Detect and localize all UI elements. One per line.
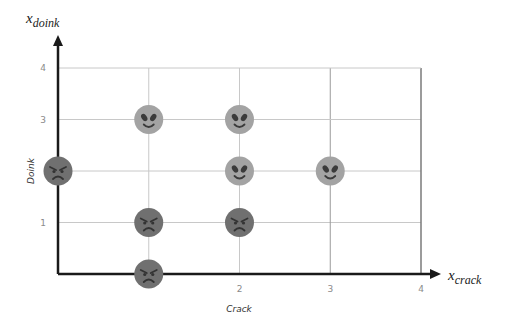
y-axis-title: Doink xyxy=(26,157,36,184)
x-axis-arrow-icon xyxy=(430,269,441,279)
x-variable-label: xcrack xyxy=(447,267,482,287)
axes xyxy=(53,35,441,279)
y-axis-arrow-icon xyxy=(53,35,63,46)
angry-face-icon xyxy=(134,208,163,237)
alien-face-icon xyxy=(316,157,345,186)
data-points xyxy=(44,105,345,289)
alien-face-icon xyxy=(134,105,163,134)
x-tick-label: 3 xyxy=(327,284,333,294)
y-tick-label: 1 xyxy=(40,218,46,228)
scatter-chart: 234134 Crack Doink xcrack xdoink xyxy=(0,0,507,333)
alien-face-icon xyxy=(225,157,254,186)
x-tick-label: 2 xyxy=(237,284,243,294)
angry-face-icon xyxy=(134,260,163,289)
alien-face-icon xyxy=(225,105,254,134)
x-tick-label: 4 xyxy=(418,284,424,294)
y-variable-label: xdoink xyxy=(25,10,60,30)
angry-face-icon xyxy=(225,208,254,237)
angry-face-icon xyxy=(44,157,73,186)
x-axis-title: Crack xyxy=(226,304,252,314)
y-tick-label: 3 xyxy=(40,115,46,125)
y-tick-label: 4 xyxy=(40,63,46,73)
